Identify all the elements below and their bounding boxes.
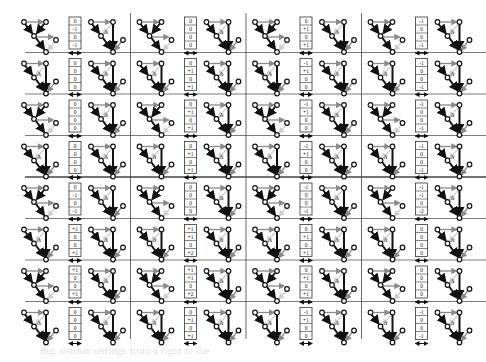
graph-edge: [439, 232, 446, 241]
table-value: 0: [189, 143, 192, 149]
graph-node: [263, 241, 268, 246]
delta-label: Δ: [384, 154, 388, 160]
graph-node: [147, 117, 152, 122]
graph-edge: [208, 232, 215, 241]
graph-node: [99, 117, 104, 122]
graph-edge: [450, 38, 458, 49]
graph-node: [226, 216, 231, 221]
graph-node: [147, 75, 152, 80]
table-value: 0: [74, 68, 77, 74]
graph-edge: [334, 80, 342, 91]
table-value: 0: [189, 18, 192, 24]
graph-node: [204, 227, 209, 232]
graph-node: [263, 200, 268, 205]
graph-node: [253, 61, 258, 66]
graph-node: [159, 50, 164, 55]
move-graph: Δ: [435, 186, 472, 221]
graph-edge: [256, 24, 263, 33]
grid-cell: Δ+100+1Δ: [22, 225, 126, 262]
table-value: 0: [74, 167, 77, 173]
graph-edge: [152, 38, 160, 49]
graph-node: [285, 121, 290, 126]
graph-edge: [395, 84, 401, 92]
move-graph: Δ: [368, 310, 405, 345]
graph-edge: [267, 246, 275, 257]
graph-edge: [164, 42, 171, 50]
table-value: 0: [189, 42, 192, 48]
graph-edge: [346, 250, 352, 258]
move-graph: Δ: [204, 186, 241, 221]
move-graph: Δ: [204, 144, 241, 179]
table-value: 0: [74, 242, 77, 248]
graph-node: [253, 186, 258, 191]
graph-node: [159, 216, 164, 221]
table-value: +1: [72, 291, 78, 297]
graph-edge: [208, 107, 215, 116]
table-value: 0: [189, 325, 192, 331]
value-table: -1+100: [300, 308, 312, 344]
table-value: 0: [420, 283, 423, 289]
graph-node: [275, 61, 280, 66]
graph-edge: [323, 149, 330, 158]
graph-edge: [92, 24, 99, 33]
graph-node: [457, 299, 462, 304]
table-value: 0: [74, 76, 77, 82]
table-value: 0: [305, 18, 308, 24]
graph-node: [111, 174, 116, 179]
graph-node: [204, 144, 209, 149]
table-value: +1: [188, 84, 194, 90]
move-graph: Δ: [320, 186, 357, 221]
graph-node: [400, 287, 405, 292]
graph-node: [330, 34, 335, 39]
graph-node: [263, 158, 268, 163]
graph-node: [467, 162, 472, 167]
table-value: -1: [419, 101, 424, 107]
graph-edge: [395, 208, 402, 216]
value-table: -100-1: [416, 142, 428, 178]
graph-edge: [256, 107, 263, 116]
graph-edge: [450, 246, 458, 257]
graph-edge: [334, 204, 342, 215]
move-graph: Δ: [204, 103, 241, 138]
grid-cell: Δ0000Δ: [22, 142, 126, 179]
graph-edge: [103, 80, 111, 91]
graph-edge: [231, 125, 237, 133]
graph-node: [236, 328, 241, 333]
graph-node: [111, 144, 116, 149]
graph-edge: [256, 149, 263, 158]
graph-node: [378, 200, 383, 205]
graph-node: [400, 38, 405, 43]
graph-edge: [103, 329, 111, 340]
graph-node: [214, 117, 219, 122]
table-value: +1: [303, 291, 309, 297]
graph-node: [204, 20, 209, 25]
graph-edge: [208, 273, 215, 282]
graph-node: [275, 186, 280, 191]
graph-edge: [164, 84, 170, 92]
graph-edge: [334, 246, 342, 257]
graph-node: [121, 328, 126, 333]
graph-node: [342, 133, 347, 138]
delta-label: Δ: [220, 29, 224, 35]
graph-edge: [141, 190, 148, 199]
graph-node: [445, 283, 450, 288]
graph-node: [390, 186, 395, 191]
delta-label: Δ: [335, 112, 339, 118]
table-value: 0: [305, 242, 308, 248]
delta-label: Δ: [104, 112, 108, 118]
graph-node: [159, 227, 164, 232]
graph-node: [263, 75, 268, 80]
graph-edge: [164, 167, 170, 175]
graph-edge: [48, 42, 55, 50]
graph-node: [467, 287, 472, 292]
graph-node: [253, 103, 258, 108]
graph-edge: [164, 250, 170, 258]
graph-edge: [439, 149, 446, 158]
move-graph: Δ: [320, 61, 357, 96]
graph-node: [99, 283, 104, 288]
grid-cell: Δ-100-1Δ: [368, 59, 472, 96]
graph-edge: [383, 80, 391, 91]
graph-node: [435, 61, 440, 66]
value-table: 0+10+1: [185, 59, 197, 95]
graph-node: [342, 186, 347, 191]
